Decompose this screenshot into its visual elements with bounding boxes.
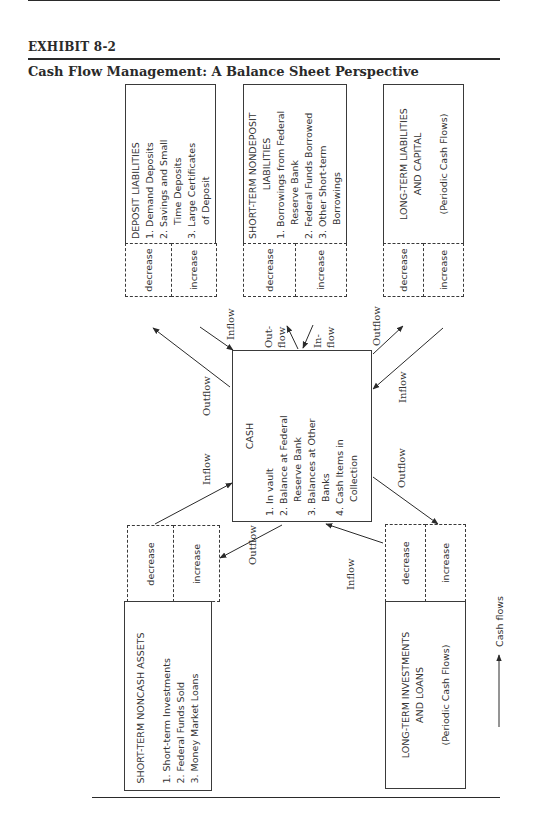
- flow-arrows: [0, 0, 547, 822]
- label-st-assets-outflow: Outflow: [247, 525, 258, 565]
- label-lt-inv-outflow: Outflow: [396, 448, 407, 488]
- label-deposit-inflow: Inflow: [225, 308, 236, 340]
- arrow-lt-liab-inflow: [373, 328, 443, 389]
- label-nondeposit-outflow-2: flow: [276, 327, 287, 348]
- arrow-st-assets-inflow: [155, 483, 232, 524]
- label-lt-inv-inflow: Inflow: [345, 558, 356, 590]
- label-st-assets-inflow: Inflow: [201, 453, 212, 485]
- label-nondeposit-inflow-2: flow: [325, 327, 336, 348]
- arrow-lt-inv-inflow: [326, 524, 383, 543]
- label-lt-liab-outflow: Outflow: [371, 306, 382, 346]
- label-nondeposit-outflow-1: Out-: [263, 326, 274, 348]
- legend-label: Cash flows: [494, 596, 505, 647]
- label-nondeposit-inflow-1: In-: [312, 334, 323, 348]
- arrow-deposit-outflow: [153, 328, 230, 387]
- label-lt-liab-inflow: Inflow: [397, 371, 408, 403]
- bottom-rule: [92, 797, 500, 798]
- label-deposit-outflow: Outflow: [201, 376, 212, 416]
- arrow-nondeposit-outflow: [287, 326, 298, 349]
